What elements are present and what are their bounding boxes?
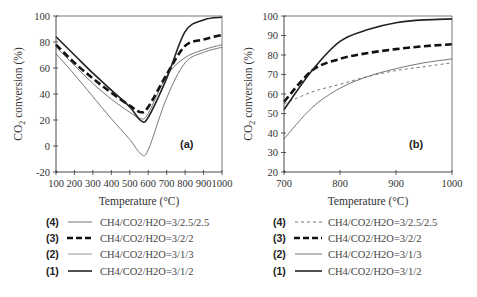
y-tick-label: 30	[268, 147, 279, 158]
y-tick-label: -20	[36, 167, 50, 178]
x-tick-label: 400	[103, 178, 119, 189]
x-tick-label: 1000	[212, 178, 233, 189]
y-tick-label: 100	[34, 11, 50, 22]
y-tick-label: 70	[268, 69, 279, 80]
x-tick-label: 800	[177, 178, 193, 189]
y-tick-label: 60	[40, 63, 51, 74]
svg-text:CH4/CO2/H2O=3/2.5/2.5: CH4/CO2/H2O=3/2.5/2.5	[328, 217, 437, 228]
svg-text:(1): (1)	[273, 265, 286, 277]
series-line-2	[284, 59, 452, 139]
svg-text:(4): (4)	[46, 216, 59, 228]
y-tick-label: 90	[268, 30, 279, 41]
svg-text:CH4/CO2/H2O=3/2/2: CH4/CO2/H2O=3/2/2	[328, 233, 421, 244]
legend-item-1: (1) CH4/CO2/H2O=3/1/2	[46, 265, 193, 277]
legend-item-3: (3) CH4/CO2/H2O=3/2/2	[273, 232, 421, 244]
legend-b: (4) CH4/CO2/H2O=3/2.5/2.5 (3) CH4/CO2/H2…	[273, 216, 437, 277]
x-tick-label: 500	[122, 178, 138, 189]
legend-a: (4) CH4/CO2/H2O=3/2.5/2.5 (3) CH4/CO2/H2…	[46, 216, 209, 277]
y-tick-label: 20	[40, 115, 51, 126]
x-tick-label: 300	[85, 178, 101, 189]
svg-text:CH4/CO2/H2O=3/1/3: CH4/CO2/H2O=3/1/3	[100, 249, 193, 260]
x-axis-title-a: Temperature (°C)	[99, 195, 180, 208]
chart-panel-b: 20304050607080901007008009001000 CO2 con…	[242, 11, 463, 209]
y-tick-label: 0	[45, 141, 50, 152]
x-tick-label: 900	[388, 178, 404, 189]
svg-text:(3): (3)	[273, 232, 286, 244]
y-tick-label: 40	[268, 128, 279, 139]
y-tick-label: 50	[268, 108, 279, 119]
svg-text:CH4/CO2/H2O=3/1/3: CH4/CO2/H2O=3/1/3	[328, 249, 421, 260]
svg-text:(4): (4)	[273, 216, 286, 228]
x-tick-label: 700	[159, 178, 175, 189]
x-tick-label: 200	[67, 178, 83, 189]
y-tick-label: 40	[40, 89, 51, 100]
figure: -200204060801001002003004005006007008009…	[0, 0, 477, 297]
legend-item-3: (3) CH4/CO2/H2O=3/2/2	[46, 232, 193, 244]
axes-b: 20304050607080901007008009001000	[262, 11, 462, 190]
x-tick-label: 800	[332, 178, 348, 189]
axes-a: -200204060801001002003004005006007008009…	[34, 11, 232, 190]
legend-item-4: (4) CH4/CO2/H2O=3/2.5/2.5	[46, 216, 209, 228]
y-tick-label: 80	[268, 50, 279, 61]
y-tick-label: 60	[268, 89, 279, 100]
svg-text:(2): (2)	[46, 248, 59, 260]
y-tick-label: 20	[268, 167, 279, 178]
plot-area-b	[284, 19, 452, 139]
legend-item-2: (2) CH4/CO2/H2O=3/1/3	[273, 248, 421, 260]
x-tick-label: 1000	[442, 178, 463, 189]
series-line-4	[284, 63, 452, 104]
svg-text:CH4/CO2/H2O=3/1/2: CH4/CO2/H2O=3/1/2	[328, 266, 421, 277]
svg-text:CH4/CO2/H2O=3/2.5/2.5: CH4/CO2/H2O=3/2.5/2.5	[100, 217, 209, 228]
y-axis-title-a: CO2 conversion (%)	[12, 47, 27, 141]
legend-item-4: (4) CH4/CO2/H2O=3/2.5/2.5	[273, 216, 437, 228]
svg-text:(1): (1)	[46, 265, 59, 277]
svg-text:CH4/CO2/H2O=3/2/2: CH4/CO2/H2O=3/2/2	[100, 233, 193, 244]
series-line-1	[284, 19, 452, 110]
panel-label-b: (b)	[409, 138, 423, 150]
x-tick-label: 900	[196, 178, 212, 189]
legend-item-1: (1) CH4/CO2/H2O=3/1/2	[273, 265, 421, 277]
series-line-3	[56, 35, 222, 112]
svg-text:CH4/CO2/H2O=3/1/2: CH4/CO2/H2O=3/1/2	[100, 266, 193, 277]
x-tick-label: 600	[140, 178, 156, 189]
x-tick-label: 100	[48, 178, 64, 189]
x-axis-title-b: Temperature (°C)	[328, 195, 409, 208]
y-tick-label: 80	[40, 37, 51, 48]
x-tick-label: 700	[276, 178, 292, 189]
svg-text:(3): (3)	[46, 232, 59, 244]
y-tick-label: 100	[262, 11, 278, 22]
series-line-2	[56, 47, 222, 156]
panel-label-a: (a)	[180, 138, 194, 150]
legend-item-2: (2) CH4/CO2/H2O=3/1/3	[46, 248, 193, 260]
chart-panel-a: -200204060801001002003004005006007008009…	[12, 11, 233, 209]
plot-area-a	[56, 17, 222, 156]
y-axis-title-b: CO2 conversion (%)	[242, 47, 257, 141]
svg-text:(2): (2)	[273, 248, 286, 260]
